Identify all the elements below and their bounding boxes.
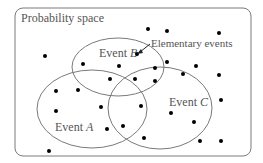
elementary-event-dot bbox=[165, 60, 169, 64]
elementary-event-dot bbox=[121, 124, 125, 128]
elementary-event-dot bbox=[99, 105, 103, 109]
elementary-event-dot bbox=[153, 79, 157, 83]
elementary-event-dot bbox=[169, 111, 173, 115]
elementary-event-dot bbox=[117, 64, 121, 68]
elementary-event-dot bbox=[54, 109, 58, 113]
elementary-event-dot bbox=[219, 139, 223, 143]
frame-label: Probability space bbox=[21, 11, 104, 25]
event-ellipses: Event AEvent BEvent C bbox=[37, 38, 212, 149]
elementary-event-dot bbox=[76, 88, 80, 92]
elementary-event-dot bbox=[108, 77, 112, 81]
elementary-event-dot bbox=[146, 27, 150, 31]
elementary-event-dot bbox=[54, 89, 58, 93]
event-b-label: Event B bbox=[99, 46, 138, 60]
elementary-event-dot bbox=[181, 72, 185, 76]
elementary-event-dot bbox=[105, 127, 109, 131]
elementary-event-dot bbox=[198, 139, 202, 143]
elementary-event-dot bbox=[192, 120, 196, 124]
probability-space-frame bbox=[15, 8, 251, 156]
elementary-event-dot bbox=[219, 98, 223, 102]
probability-space-diagram: Probability space Event AEvent BEvent C … bbox=[0, 0, 263, 163]
arrow-label: Elementary events bbox=[151, 37, 233, 49]
elementary-event-dot bbox=[142, 136, 146, 140]
elementary-event-dot bbox=[47, 149, 51, 153]
elementary-event-dot bbox=[81, 62, 85, 66]
elementary-event-dot bbox=[194, 64, 198, 68]
elementary-event-dot bbox=[139, 104, 143, 108]
elementary-event-dot bbox=[217, 73, 221, 77]
elementary-event-dot bbox=[43, 54, 47, 58]
event-a-label: Event A bbox=[55, 120, 94, 134]
elementary-event-dot bbox=[133, 77, 137, 81]
elementary-event-dot bbox=[217, 31, 221, 35]
elementary-event-dot bbox=[165, 29, 169, 33]
elementary-event-dot bbox=[153, 66, 157, 70]
event-c-label: Event C bbox=[169, 95, 209, 109]
event-a-ellipse bbox=[37, 70, 147, 148]
